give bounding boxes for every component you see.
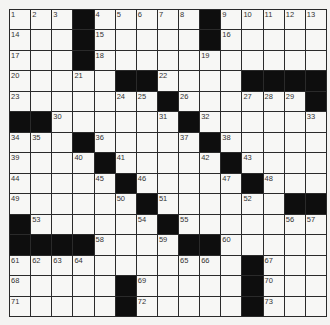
crossword-cell[interactable]: 38 — [221, 133, 241, 152]
crossword-cell[interactable]: 53 — [31, 215, 51, 234]
crossword-cell[interactable]: 47 — [221, 174, 241, 193]
crossword-cell[interactable]: 40 — [73, 153, 93, 172]
crossword-cell[interactable]: 41 — [116, 153, 136, 172]
crossword-cell[interactable]: 13 — [306, 10, 326, 29]
crossword-cell[interactable]: 20 — [10, 71, 30, 90]
crossword-cell[interactable] — [221, 276, 241, 295]
crossword-cell[interactable]: 55 — [179, 215, 199, 234]
crossword-cell[interactable] — [264, 112, 284, 131]
crossword-cell[interactable]: 61 — [10, 256, 30, 275]
crossword-cell[interactable]: 56 — [285, 215, 305, 234]
crossword-cell[interactable]: 73 — [264, 297, 284, 316]
crossword-cell[interactable]: 62 — [31, 256, 51, 275]
crossword-cell[interactable] — [285, 297, 305, 316]
crossword-cell[interactable] — [264, 133, 284, 152]
crossword-cell[interactable] — [306, 51, 326, 70]
crossword-cell[interactable] — [264, 235, 284, 254]
crossword-cell[interactable]: 34 — [10, 133, 30, 152]
crossword-cell[interactable] — [306, 297, 326, 316]
crossword-cell[interactable] — [116, 133, 136, 152]
crossword-cell[interactable] — [73, 92, 93, 111]
crossword-cell[interactable]: 10 — [242, 10, 262, 29]
crossword-cell[interactable] — [158, 297, 178, 316]
crossword-cell[interactable]: 45 — [95, 174, 115, 193]
crossword-cell[interactable]: 68 — [10, 276, 30, 295]
crossword-cell[interactable]: 14 — [10, 30, 30, 49]
crossword-cell[interactable] — [306, 174, 326, 193]
crossword-cell[interactable]: 21 — [73, 71, 93, 90]
crossword-cell[interactable] — [137, 30, 157, 49]
crossword-cell[interactable] — [95, 71, 115, 90]
crossword-cell[interactable] — [285, 276, 305, 295]
crossword-cell[interactable] — [52, 71, 72, 90]
crossword-cell[interactable] — [221, 71, 241, 90]
crossword-cell[interactable] — [242, 51, 262, 70]
crossword-cell[interactable] — [158, 30, 178, 49]
crossword-cell[interactable] — [179, 174, 199, 193]
crossword-cell[interactable] — [179, 51, 199, 70]
crossword-cell[interactable] — [116, 30, 136, 49]
crossword-cell[interactable] — [95, 92, 115, 111]
crossword-cell[interactable]: 59 — [158, 235, 178, 254]
crossword-cell[interactable]: 70 — [264, 276, 284, 295]
crossword-cell[interactable]: 52 — [242, 194, 262, 213]
crossword-cell[interactable] — [95, 276, 115, 295]
crossword-cell[interactable]: 72 — [137, 297, 157, 316]
crossword-cell[interactable] — [242, 215, 262, 234]
crossword-cell[interactable] — [242, 30, 262, 49]
crossword-cell[interactable] — [158, 256, 178, 275]
crossword-cell[interactable] — [52, 153, 72, 172]
crossword-cell[interactable] — [221, 51, 241, 70]
crossword-cell[interactable] — [158, 133, 178, 152]
crossword-cell[interactable] — [285, 133, 305, 152]
crossword-cell[interactable]: 27 — [242, 92, 262, 111]
crossword-cell[interactable] — [285, 256, 305, 275]
crossword-cell[interactable] — [137, 112, 157, 131]
crossword-cell[interactable] — [95, 112, 115, 131]
crossword-cell[interactable] — [73, 174, 93, 193]
crossword-cell[interactable] — [52, 215, 72, 234]
crossword-cell[interactable]: 18 — [95, 51, 115, 70]
crossword-cell[interactable]: 50 — [116, 194, 136, 213]
crossword-cell[interactable] — [221, 215, 241, 234]
crossword-cell[interactable] — [179, 30, 199, 49]
crossword-cell[interactable] — [306, 276, 326, 295]
crossword-cell[interactable] — [242, 133, 262, 152]
crossword-cell[interactable] — [264, 194, 284, 213]
crossword-cell[interactable]: 36 — [95, 133, 115, 152]
crossword-cell[interactable] — [31, 153, 51, 172]
crossword-cell[interactable] — [179, 297, 199, 316]
crossword-cell[interactable]: 26 — [179, 92, 199, 111]
crossword-cell[interactable]: 48 — [264, 174, 284, 193]
crossword-cell[interactable] — [95, 194, 115, 213]
crossword-cell[interactable] — [264, 153, 284, 172]
crossword-cell[interactable]: 51 — [158, 194, 178, 213]
crossword-cell[interactable] — [73, 194, 93, 213]
crossword-cell[interactable] — [179, 194, 199, 213]
crossword-cell[interactable]: 35 — [31, 133, 51, 152]
crossword-cell[interactable]: 17 — [10, 51, 30, 70]
crossword-cell[interactable] — [52, 276, 72, 295]
crossword-cell[interactable] — [31, 297, 51, 316]
crossword-cell[interactable] — [306, 133, 326, 152]
crossword-cell[interactable] — [264, 51, 284, 70]
crossword-cell[interactable] — [95, 297, 115, 316]
crossword-cell[interactable] — [116, 256, 136, 275]
crossword-cell[interactable] — [52, 92, 72, 111]
crossword-cell[interactable] — [285, 30, 305, 49]
crossword-cell[interactable]: 69 — [137, 276, 157, 295]
crossword-cell[interactable]: 3 — [52, 10, 72, 29]
crossword-cell[interactable]: 46 — [137, 174, 157, 193]
crossword-cell[interactable] — [200, 297, 220, 316]
crossword-cell[interactable]: 5 — [116, 10, 136, 29]
crossword-cell[interactable]: 19 — [200, 51, 220, 70]
crossword-cell[interactable]: 4 — [95, 10, 115, 29]
crossword-cell[interactable]: 49 — [10, 194, 30, 213]
crossword-cell[interactable]: 65 — [179, 256, 199, 275]
crossword-cell[interactable] — [73, 276, 93, 295]
crossword-cell[interactable] — [179, 71, 199, 90]
crossword-cell[interactable] — [285, 112, 305, 131]
crossword-cell[interactable]: 24 — [116, 92, 136, 111]
crossword-cell[interactable] — [242, 235, 262, 254]
crossword-cell[interactable]: 42 — [200, 153, 220, 172]
